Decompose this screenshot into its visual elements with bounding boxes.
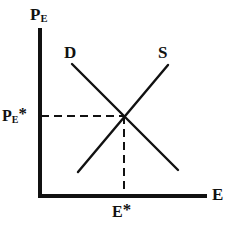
equilibrium-price-label-main: P bbox=[2, 107, 12, 124]
demand-curve-label: D bbox=[64, 44, 76, 61]
x-axis-label-main: E bbox=[212, 185, 223, 204]
x-axis-label: E bbox=[212, 186, 223, 203]
equilibrium-price-label: PE* bbox=[2, 106, 27, 125]
equilibrium-quantity-label-star: * bbox=[123, 200, 131, 219]
equilibrium-price-label-star: * bbox=[18, 104, 26, 123]
y-axis-label-subscript: E bbox=[40, 13, 47, 24]
y-axis-label: PE bbox=[30, 6, 47, 25]
supply-curve-label: S bbox=[158, 44, 167, 61]
y-axis-label-main: P bbox=[30, 5, 40, 24]
supply-demand-figure: PE E PE* E* D S bbox=[0, 0, 232, 231]
equilibrium-quantity-label: E* bbox=[112, 202, 131, 220]
diagram-canvas bbox=[0, 0, 232, 231]
equilibrium-quantity-label-main: E bbox=[112, 203, 123, 220]
